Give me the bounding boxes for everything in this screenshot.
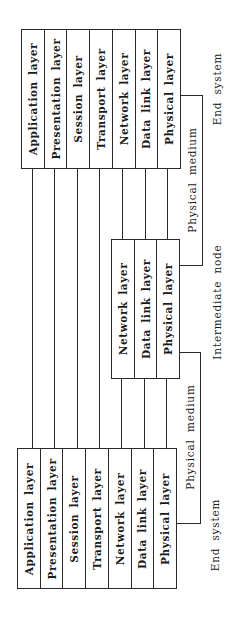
bottom-data-link-layer: Data link layer — [132, 449, 155, 588]
layer-label: Presentation layer — [46, 458, 58, 579]
peer-line-transport — [99, 169, 100, 448]
layer-label: Data link layer — [136, 469, 148, 569]
peer-line-physical-upper — [167, 169, 168, 239]
bottom-network-layer: Network layer — [109, 449, 132, 588]
top-end-system-label: End system — [211, 53, 223, 126]
bottom-session-layer: Session layer — [63, 449, 86, 588]
layer-label: Application layer — [23, 462, 35, 574]
top-end-system-stack: Application layer Presentation layer Ses… — [21, 29, 181, 169]
bottom-physical-layer: Physical layer — [154, 449, 176, 588]
top-presentation-layer: Presentation layer — [45, 30, 68, 168]
medium-link-2-vertical — [200, 352, 201, 524]
layer-label: Physical layer — [162, 263, 174, 355]
peer-line-datalink-lower — [144, 379, 145, 448]
peer-line-datalink-upper — [145, 169, 146, 239]
top-physical-layer: Physical layer — [158, 30, 180, 168]
layer-label: Network layer — [118, 53, 130, 146]
peer-line-presentation — [54, 169, 55, 448]
bottom-transport-layer: Transport layer — [86, 449, 109, 588]
layer-label: Data link layer — [140, 49, 152, 149]
medium-link-1-top — [181, 95, 203, 96]
bottom-end-system-label: End system — [209, 499, 221, 572]
intermediate-node-label: Intermediate node — [211, 244, 223, 359]
medium-link-2-top — [180, 352, 201, 353]
mid-network-layer: Network layer — [112, 240, 135, 378]
peer-line-application — [32, 169, 33, 448]
top-session-layer: Session layer — [67, 30, 90, 168]
layer-label: Network layer — [114, 472, 126, 565]
layer-label: Session layer — [72, 55, 84, 142]
peer-line-session — [77, 169, 78, 448]
peer-line-network-upper — [122, 169, 123, 239]
top-application-layer: Application layer — [22, 30, 45, 168]
layer-label: Physical layer — [163, 53, 175, 145]
layer-label: Session layer — [68, 475, 80, 562]
layer-label: Presentation layer — [50, 38, 62, 159]
intermediate-node-stack: Network layer Data link layer Physical l… — [111, 239, 180, 379]
mid-physical-layer: Physical layer — [157, 240, 179, 378]
medium-link-1-vertical — [202, 95, 203, 266]
physical-medium-label-2: Physical medium — [184, 384, 196, 489]
bottom-application-layer: Application layer — [18, 449, 41, 588]
physical-medium-label-1: Physical medium — [186, 127, 198, 232]
layer-label: Transport layer — [91, 468, 103, 569]
top-transport-layer: Transport layer — [90, 30, 113, 168]
top-data-link-layer: Data link layer — [136, 30, 159, 168]
bottom-presentation-layer: Presentation layer — [41, 449, 64, 588]
layer-label: Transport layer — [95, 48, 107, 149]
bottom-end-system-stack: Application layer Presentation layer Ses… — [17, 448, 177, 589]
medium-link-2-bottom — [177, 523, 201, 524]
layer-label: Physical layer — [159, 473, 171, 565]
medium-link-1-bottom — [180, 265, 203, 266]
top-network-layer: Network layer — [113, 30, 136, 168]
layer-label: Data link layer — [140, 259, 152, 359]
mid-data-link-layer: Data link layer — [135, 240, 158, 378]
layer-label: Application layer — [27, 43, 39, 155]
peer-line-network-lower — [121, 379, 122, 448]
peer-line-physical-lower — [166, 379, 167, 448]
layer-label: Network layer — [117, 263, 129, 356]
